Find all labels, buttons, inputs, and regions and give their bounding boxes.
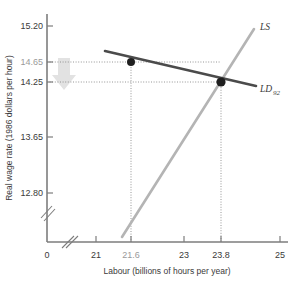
- x-tick-label: 21: [91, 250, 101, 260]
- y-axis-title: Real wage rate (1986 dollars per hour): [4, 55, 14, 201]
- chart-figure: 15.20 14.65 14.25 13.65 12.80 0 21 21.6 …: [0, 0, 300, 281]
- x-tick-label: 23.8: [212, 250, 230, 260]
- x-axis-title: Labour (billions of hours per year): [103, 266, 230, 276]
- y-tick-label: 15.20: [20, 21, 43, 31]
- shift-arrow-icon: [52, 58, 76, 90]
- guide-lines: [47, 62, 221, 242]
- y-axis-ticks: [47, 26, 53, 193]
- chart-svg: 15.20 14.65 14.25 13.65 12.80 0 21 21.6 …: [0, 0, 300, 281]
- x-tick-label: 0: [44, 250, 49, 260]
- y-tick-label: 13.65: [20, 132, 43, 142]
- series-ld92-line: [105, 51, 256, 86]
- series-label-ld92: LD 92: [259, 84, 281, 97]
- data-point-marker: [216, 77, 225, 86]
- y-tick-label: 14.65: [20, 57, 43, 67]
- data-point-marker: [127, 58, 135, 66]
- series-label-ls: LS: [259, 22, 270, 32]
- y-tick-label: 12.80: [20, 188, 43, 198]
- x-tick-label: 21.6: [122, 250, 140, 260]
- series-label-ld-text: LD: [259, 84, 272, 94]
- series-label-ld-subscript: 92: [273, 89, 281, 97]
- x-tick-label: 25: [275, 250, 285, 260]
- x-tick-label: 23: [179, 250, 189, 260]
- y-tick-label: 14.25: [20, 77, 43, 87]
- axes: [41, 14, 288, 248]
